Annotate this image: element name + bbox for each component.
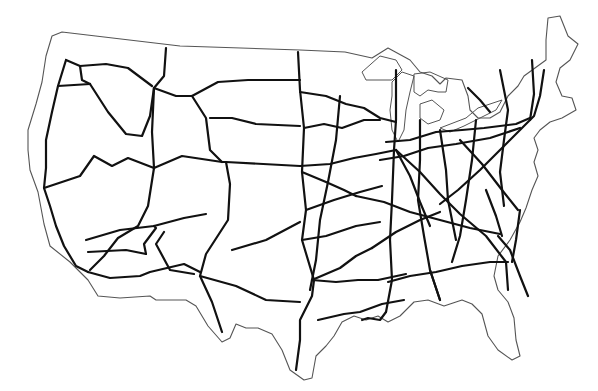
highway-route (468, 88, 490, 112)
highway-route (232, 222, 300, 250)
highway-route (66, 60, 152, 86)
highway-route (388, 262, 508, 282)
highway-route (210, 118, 300, 126)
highway-route (88, 250, 146, 254)
us-border-outline (28, 16, 578, 380)
highway-route (486, 190, 502, 236)
highway-route (498, 236, 528, 296)
highway-route (90, 84, 154, 136)
highway-route (430, 270, 440, 300)
highway-route (200, 162, 230, 332)
highway-route (192, 96, 222, 162)
highway-route (88, 264, 200, 278)
highway-route (530, 60, 534, 120)
highway-route (80, 66, 90, 84)
us-interstate-map (0, 0, 598, 391)
highway-route (300, 150, 396, 166)
country-border (28, 16, 578, 380)
highway-route (144, 226, 156, 254)
highway-route (318, 300, 404, 320)
highway-route (58, 84, 90, 86)
highway-route (296, 52, 314, 370)
highway-route (44, 60, 88, 272)
highway-route (200, 276, 300, 302)
highway-route (440, 130, 456, 240)
lake-shoreline (420, 100, 444, 124)
highway-route (302, 222, 380, 240)
interstate-highways (44, 48, 544, 370)
highway-route (154, 80, 300, 96)
highway-route (312, 248, 372, 280)
highway-route (300, 92, 396, 122)
highway-route (44, 156, 154, 188)
map-canvas (0, 0, 598, 391)
highway-route (156, 232, 194, 274)
lake-shoreline (390, 72, 414, 142)
highway-route (396, 150, 430, 226)
highway-route (154, 48, 166, 88)
highway-route (500, 70, 508, 206)
highway-route (86, 214, 206, 240)
highway-route (304, 120, 380, 128)
highway-route (512, 210, 520, 262)
